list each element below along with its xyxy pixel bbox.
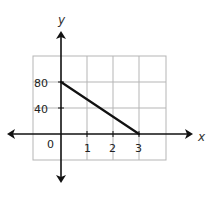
coordinate-plane: y x 80 40 0 1 2 3: [0, 0, 214, 200]
x-tick-label-3: 3: [135, 142, 142, 155]
x-tick-label-1: 1: [84, 142, 91, 155]
y-tick-label-40: 40: [34, 103, 48, 116]
y-tick-label-80: 80: [34, 77, 48, 90]
x-tick-label-2: 2: [109, 142, 116, 155]
origin-label: 0: [47, 138, 54, 151]
x-axis: [7, 129, 193, 139]
y-axis-label: y: [57, 13, 66, 27]
x-axis-label: x: [197, 130, 206, 144]
